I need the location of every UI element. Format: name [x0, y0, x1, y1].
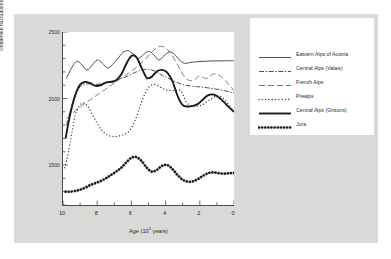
legend-item-4[interactable]: Central Alps (Grisons) [258, 105, 370, 116]
y-axis-title: Timberline fluctuations (m) [0, 0, 4, 66]
series-line-5 [66, 157, 234, 192]
legend-label: Jura [296, 120, 306, 129]
series-line-0 [66, 51, 234, 79]
x-tick-label: 6 [124, 210, 136, 216]
x-tick-label: 4 [159, 210, 171, 216]
legend-swatch-icon [258, 105, 292, 116]
figure-panel: Timberline fluctuations (m) Age (103 yea… [14, 14, 378, 243]
legend-label: Prealps [296, 92, 314, 101]
legend: Eastern Alps of AustriaCentral Alps (Val… [250, 18, 374, 135]
legend-swatch-icon [258, 91, 292, 102]
plot-svg [63, 32, 234, 205]
legend-swatch-icon [258, 63, 292, 74]
plot-area [62, 32, 234, 206]
series-line-2 [66, 46, 234, 118]
y-tick-label: 2000 [46, 96, 60, 102]
legend-label: Eastern Alps of Austria [296, 50, 348, 59]
legend-item-5[interactable]: Jura [258, 119, 370, 130]
x-axis-title: Age (103 years) [62, 226, 235, 234]
x-tick-label: 0 [227, 210, 239, 216]
legend-item-2[interactable]: French Alps [258, 77, 370, 88]
series-line-4 [66, 55, 234, 138]
y-tick-label: 2500 [46, 29, 60, 35]
legend-label: Central Alps (Grisons) [296, 106, 347, 115]
legend-swatch-icon [258, 49, 292, 60]
x-axis-title-prefix: Age (10 [129, 228, 149, 234]
legend-swatch-icon [258, 77, 292, 88]
x-axis-title-suffix: years) [151, 228, 168, 234]
legend-label: French Alps [296, 78, 323, 87]
y-tick-label: 1500 [46, 162, 60, 168]
x-tick-label: 2 [193, 210, 205, 216]
legend-item-3[interactable]: Prealps [258, 91, 370, 102]
x-tick-label: 10 [56, 210, 68, 216]
legend-swatch-icon [258, 119, 292, 130]
legend-item-1[interactable]: Central Alps (Valais) [258, 63, 370, 74]
legend-label: Central Alps (Valais) [296, 64, 343, 73]
x-tick-label: 8 [90, 210, 102, 216]
legend-item-0[interactable]: Eastern Alps of Austria [258, 49, 370, 60]
